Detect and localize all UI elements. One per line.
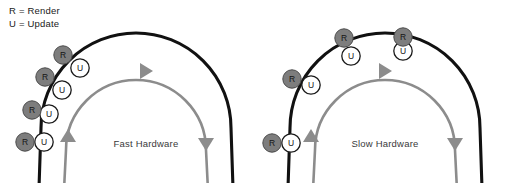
diagram-canvas: R = RenderU = UpdateFast HardwareURURURU…: [0, 0, 505, 183]
panel-slow-hardware: Slow HardwareURURURUR: [263, 28, 482, 183]
fast-hardware-render-marker-label-1: R: [42, 72, 48, 82]
fast-hardware-update-marker-label-2: U: [46, 109, 52, 119]
fast-hardware-label: Fast Hardware: [114, 138, 179, 149]
slow-hardware-inner-arc: [313, 80, 457, 183]
slow-hardware-label: Slow Hardware: [351, 138, 418, 149]
fast-hardware-flow-arrow-right: [198, 138, 214, 151]
fast-hardware-flow-arrow-left: [60, 129, 76, 142]
fast-hardware-render-marker-label-3: R: [22, 137, 28, 147]
fast-hardware-update-marker-label-3: U: [41, 137, 47, 147]
fast-hardware-render-marker-label-0: R: [60, 50, 66, 60]
legend-update-entry: U = Update: [9, 18, 59, 29]
panel-fast-hardware: Fast HardwareURURURUR: [16, 33, 233, 183]
slow-hardware-update-marker-label-1: U: [348, 51, 354, 61]
legend: R = RenderU = Update: [9, 5, 60, 29]
fast-hardware-flow-arrow-top: [140, 63, 153, 79]
slow-hardware-render-marker-label-1: R: [341, 33, 347, 43]
slow-hardware-flow-arrow-right: [447, 138, 463, 151]
slow-hardware-render-marker-label-0: R: [400, 32, 406, 42]
diagram-root: R = RenderU = UpdateFast HardwareURURURU…: [0, 0, 505, 183]
slow-hardware-flow-arrow-top: [379, 63, 392, 79]
fast-hardware-inner-arc: [64, 80, 208, 183]
slow-hardware-update-marker-label-3: U: [288, 138, 294, 148]
slow-hardware-render-marker-label-2: R: [289, 74, 295, 84]
slow-hardware-outer-arc: [288, 33, 482, 183]
legend-render-entry: R = Render: [9, 5, 60, 16]
slow-hardware-render-marker-label-3: R: [269, 138, 275, 148]
fast-hardware-update-marker-label-0: U: [77, 63, 83, 73]
fast-hardware-render-marker-label-2: R: [29, 105, 35, 115]
slow-hardware-update-marker-label-0: U: [400, 46, 406, 56]
fast-hardware-update-marker-label-1: U: [59, 85, 65, 95]
slow-hardware-update-marker-label-2: U: [308, 80, 314, 90]
